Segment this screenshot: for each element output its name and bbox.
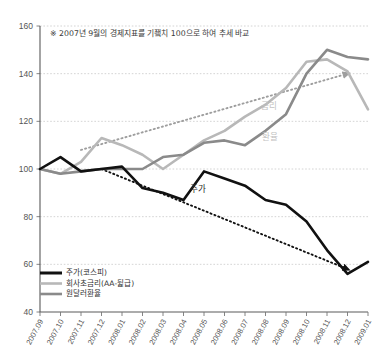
x-axis-tick-label: 2008.10 [291,318,312,346]
legend: 주가(코스피)회사초금리(AA-뒱급)원달러환율 [40,268,134,298]
legend-label-1: 회사초금리(AA-뒱급) [66,279,134,288]
x-axis-tick-label: 2008.01 [106,318,127,346]
y-axis-tick-label: 140 [19,69,33,79]
legend-label-2: 원달러환율 [66,288,101,298]
x-axis-tick-label: 2007.10 [45,318,66,346]
series-line-1 [40,59,368,173]
y-axis-tick-label: 40 [24,307,34,317]
x-axis-group: 2007.092007.102007.112007.122008.012008.… [24,312,373,346]
trend-arrows-group [81,74,348,269]
y-axis-tick-label: 160 [19,21,33,31]
x-axis-tick-label: 2008.06 [209,318,230,346]
x-axis-tick-label: 2007.12 [86,318,107,346]
y-axis-tick-label: 120 [19,116,33,126]
inline-label-fx: 환율 [262,131,278,142]
x-axis-tick-label: 2008.09 [270,318,291,346]
data-series-group [40,50,368,274]
series-line-0 [40,157,368,274]
y-axis-tick-label: 80 [24,212,34,222]
chart-container: 4060801001201401602007.092007.102007.112… [0,0,378,360]
x-axis-tick-label: 2008.02 [127,318,148,346]
x-axis-tick-label: 2007.11 [66,318,87,346]
x-axis-tick-label: 2008.05 [188,318,209,346]
legend-label-0: 주가(코스피) [66,268,107,277]
series-line-2 [40,50,368,174]
inline-label-rate: 금리 [261,101,277,111]
x-axis-tick-label: 2007.09 [24,318,45,346]
x-axis-tick-label: 2008.11 [312,318,333,346]
x-axis-tick-label: 2008.12 [332,318,353,346]
trend-comparison-line-chart: 4060801001201401602007.092007.102007.112… [0,0,378,360]
inline-label-stock: 주가 [190,184,206,194]
x-axis-tick-label: 2008.04 [168,318,189,346]
rising-trend [81,74,348,150]
x-axis-tick-label: 2009.01 [352,318,373,346]
x-axis-tick-label: 2008.08 [250,318,271,346]
y-axis-tick-label: 60 [24,259,34,269]
chart-note: ※ 2007년 9월의 경제지표를 기죀치 100으로 하여 추세 바교 [50,28,249,38]
x-axis-tick-label: 2008.07 [229,318,250,346]
y-axis-tick-label: 100 [19,164,33,174]
x-axis-tick-label: 2008.03 [147,318,168,346]
